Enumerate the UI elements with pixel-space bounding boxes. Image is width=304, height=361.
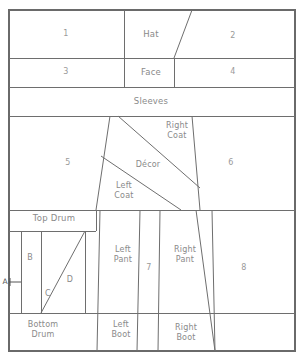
coat-diagonal-lower xyxy=(101,156,181,210)
outer-frame xyxy=(9,10,295,351)
drum-triangle-diagonal xyxy=(41,231,85,313)
hat-diagonal xyxy=(174,10,192,58)
rule-piece7-right xyxy=(158,210,160,351)
layout-svg xyxy=(0,0,304,361)
coat-diagonal-upper xyxy=(118,116,200,188)
coat-right-edge xyxy=(192,116,200,210)
coat-left-edge xyxy=(96,116,110,210)
rule-left-pant-right xyxy=(137,210,140,351)
rule-left-pant-left xyxy=(97,210,100,351)
cutting-layout-diagram: 1 Hat 2 3 Face 4 Sleeves 5 Right Coat Dé… xyxy=(0,0,304,361)
dimension-label-a: A xyxy=(2,277,7,286)
